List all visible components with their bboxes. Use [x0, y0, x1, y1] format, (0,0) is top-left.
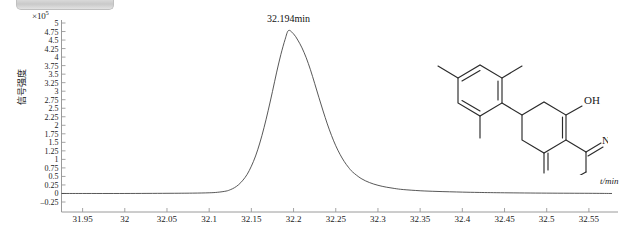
x-tick-label: 32.05	[157, 214, 177, 224]
propyl-bond-2	[568, 172, 586, 175]
y-tick-label: –0.25	[0, 198, 59, 207]
x-tick-label: 32.45	[494, 214, 514, 224]
aryl-methyl-top-left	[438, 66, 458, 78]
x-tick-label: 32	[120, 214, 129, 224]
x-tick-label: 32.2	[286, 214, 302, 224]
chromatogram-figure: ×105 信号强度 t/min 32.194min 54.754.54.2543…	[0, 0, 639, 242]
ring-to-imine-carbon	[566, 140, 586, 152]
x-tick-label: 32.55	[579, 214, 599, 224]
x-tick-label: 32.25	[326, 214, 346, 224]
ketone-oxygen-label: O	[540, 174, 548, 175]
aryl-methyl-top-right	[502, 66, 522, 78]
imine-nitrogen-label: N	[602, 134, 608, 146]
x-axis-ticks	[83, 208, 589, 212]
x-tick-label: 32.4	[454, 214, 470, 224]
x-tick-label: 32.5	[539, 214, 555, 224]
hydroxyl-label: OH	[584, 94, 600, 106]
aryl-double-bond-3	[462, 101, 480, 112]
imine-bond-2	[588, 147, 603, 156]
x-tick-label: 31.95	[72, 214, 92, 224]
aryl-ring	[458, 65, 502, 116]
chemical-structure-diagram: OH O N O	[418, 40, 608, 175]
imine-bond-1	[586, 143, 601, 152]
cyclohexenone-ring	[522, 102, 566, 153]
x-tick-label: 32.1	[201, 214, 217, 224]
y-axis-ticks	[62, 23, 66, 202]
x-tick-label: 32.15	[241, 214, 261, 224]
aryl-to-ring-bond	[502, 103, 522, 115]
hydroxyl-bond	[566, 106, 582, 115]
x-tick-label: 32.35	[410, 214, 430, 224]
aryl-double-bond-1	[462, 71, 480, 82]
x-tick-label: 32.3	[370, 214, 386, 224]
